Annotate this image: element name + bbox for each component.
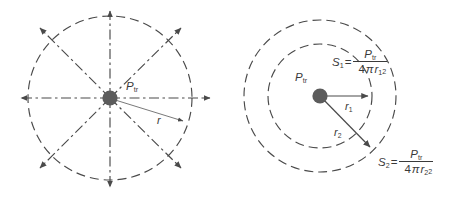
s1-num-subscript: tr (372, 54, 376, 62)
s1-equals-sign: = (345, 56, 354, 68)
left-radius-symbol: r (157, 114, 161, 126)
s2-numerator: Ptr (406, 148, 426, 161)
ray-northwest (40, 28, 110, 98)
s2-den-exponent: 2 (428, 169, 432, 176)
s2-equals-sign: = (391, 156, 400, 168)
ray-southwest (40, 98, 110, 168)
s1-den-four: 4 (358, 63, 364, 75)
ray-southeast (110, 98, 181, 168)
figure-root: Ptr r Ptr r1 r2 S1 = Ptr 4πr12 S2 = Ptr … (0, 0, 452, 197)
right-ptr-symbol: P (295, 71, 303, 83)
s1-subscript: 1 (340, 62, 344, 70)
s2-lhs: S2 (378, 156, 391, 168)
s2-num-subscript: tr (418, 154, 422, 162)
left-ptr-label: Ptr (126, 81, 138, 93)
equation-s2: S2 = Ptr 4πr22 (378, 148, 433, 176)
right-ptr-label: Ptr (295, 72, 307, 84)
source-dot-left (102, 90, 117, 105)
left-ptr-subscript: tr (134, 86, 138, 94)
s1-numerator: Ptr (360, 48, 380, 61)
radius-arrow (112, 99, 183, 121)
s1-den-exponent: 2 (382, 69, 386, 76)
s1-denominator: 4πr12 (355, 62, 385, 75)
left-ptr-symbol: P (126, 80, 134, 92)
equation-s1: S1 = Ptr 4πr12 (332, 48, 387, 76)
s2-den-pi: π (411, 163, 421, 175)
ray-northeast (110, 28, 181, 98)
s1-symbol: S (332, 56, 340, 68)
s2-num-symbol: P (410, 148, 418, 160)
s2-denominator: 4πr22 (401, 162, 431, 175)
s1-lhs: S1 (332, 56, 345, 68)
right-ptr-subscript: tr (303, 77, 307, 85)
s2-subscript: 2 (386, 162, 390, 170)
s1-num-symbol: P (364, 48, 372, 60)
left-radius-label: r (157, 115, 161, 126)
left-diagram-group (21, 11, 210, 187)
s2-symbol: S (378, 156, 386, 168)
right-diagram-group (244, 20, 396, 172)
s1-fraction: Ptr 4πr12 (353, 48, 387, 76)
r1-label: r1 (345, 101, 352, 112)
s2-den-four: 4 (404, 163, 410, 175)
source-dot-right (312, 88, 327, 103)
r1-subscript: 1 (349, 106, 353, 113)
s1-den-pi: π (365, 63, 375, 75)
r2-label: r2 (334, 127, 341, 138)
s2-fraction: Ptr 4πr22 (399, 148, 433, 176)
r2-subscript: 2 (338, 132, 342, 139)
